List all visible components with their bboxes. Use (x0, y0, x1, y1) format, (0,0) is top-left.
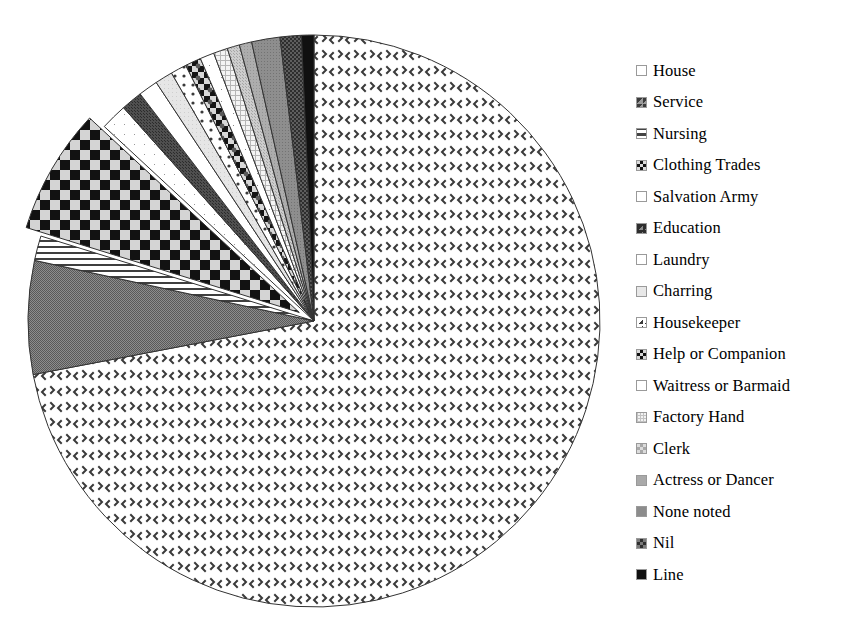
swatch-housekeeper-icon (636, 317, 647, 328)
legend-label: None noted (653, 503, 731, 521)
legend-item-clerk[interactable]: Clerk (636, 433, 865, 465)
legend-item-actress-or-dancer[interactable]: Actress or Dancer (636, 465, 865, 497)
swatch-education-icon (636, 223, 647, 234)
legend-item-house[interactable]: House (636, 55, 865, 87)
chart-legend: HouseServiceNursingClothing TradesSalvat… (636, 55, 865, 591)
legend-label: Clerk (653, 440, 690, 458)
swatch-line-icon (636, 569, 647, 580)
swatch-factory-hand-icon (636, 412, 647, 423)
pie-chart-canvas (0, 0, 634, 634)
swatch-charring-icon (636, 286, 647, 297)
swatch-clerk-icon (636, 443, 647, 454)
legend-item-service[interactable]: Service (636, 87, 865, 119)
swatch-salvation-army-icon (636, 191, 647, 202)
legend-item-housekeeper[interactable]: Housekeeper (636, 307, 865, 339)
swatch-nursing-icon (636, 128, 647, 139)
pie-slices-group (26, 35, 600, 607)
legend-item-clothing-trades[interactable]: Clothing Trades (636, 150, 865, 182)
legend-label: Nursing (653, 125, 707, 143)
legend-item-salvation-army[interactable]: Salvation Army (636, 181, 865, 213)
legend-label: Help or Companion (653, 345, 786, 363)
legend-item-line[interactable]: Line (636, 559, 865, 591)
legend-label: Laundry (653, 251, 710, 269)
legend-label: Education (653, 219, 721, 237)
legend-label: Housekeeper (653, 314, 740, 332)
swatch-waitress-or-barmaid-icon (636, 380, 647, 391)
swatch-service-icon (636, 97, 647, 108)
legend-label: Salvation Army (653, 188, 758, 206)
legend-label: Nil (653, 534, 674, 552)
legend-label: Line (653, 566, 684, 584)
legend-label: Waitress or Barmaid (653, 377, 790, 395)
legend-item-nursing[interactable]: Nursing (636, 118, 865, 150)
legend-item-factory-hand[interactable]: Factory Hand (636, 402, 865, 434)
legend-label: House (653, 62, 696, 80)
pie-chart-figure: HouseServiceNursingClothing TradesSalvat… (0, 0, 865, 634)
swatch-house-icon (636, 65, 647, 76)
legend-label: Factory Hand (653, 408, 744, 426)
swatch-laundry-icon (636, 254, 647, 265)
legend-label: Actress or Dancer (653, 471, 774, 489)
legend-item-none-noted[interactable]: None noted (636, 496, 865, 528)
swatch-nil-icon (636, 538, 647, 549)
legend-label: Clothing Trades (653, 156, 760, 174)
legend-item-education[interactable]: Education (636, 213, 865, 245)
swatch-help-or-companion-icon (636, 349, 647, 360)
legend-item-help-or-companion[interactable]: Help or Companion (636, 339, 865, 371)
swatch-clothing-trades-icon (636, 160, 647, 171)
legend-label: Charring (653, 282, 712, 300)
legend-item-laundry[interactable]: Laundry (636, 244, 865, 276)
legend-item-charring[interactable]: Charring (636, 276, 865, 308)
legend-item-waitress-or-barmaid[interactable]: Waitress or Barmaid (636, 370, 865, 402)
swatch-actress-or-dancer-icon (636, 475, 647, 486)
swatch-none-noted-icon (636, 506, 647, 517)
legend-label: Service (653, 93, 703, 111)
legend-item-nil[interactable]: Nil (636, 528, 865, 560)
